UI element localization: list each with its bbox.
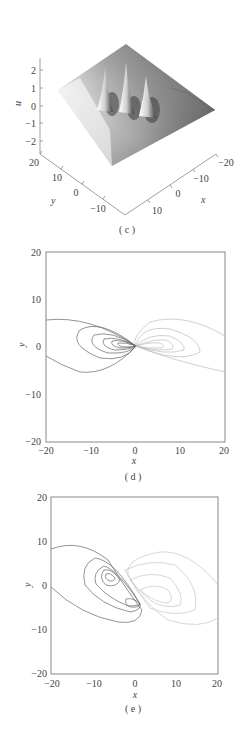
svg-text:−20: −20 [38, 445, 54, 456]
svg-text:2: 2 [31, 65, 36, 76]
svg-text:−20: −20 [218, 157, 234, 168]
panel-e-contour-plot: 20 10 0 −10 −20 −20 −10 0 10 20 x y [22, 492, 222, 715]
y-ticks-e: 20 10 0 −10 −20 [31, 492, 47, 679]
svg-text:0: 0 [42, 580, 47, 591]
svg-text:−20: −20 [44, 678, 60, 689]
panel-d-contour-plot: 20 10 0 −10 −20 −20 −10 0 10 20 x y [16, 247, 229, 483]
x-ticks-e: −20 −10 0 10 20 [44, 678, 222, 689]
caption-d: ( d ) [125, 471, 142, 483]
svg-text:−2: −2 [25, 136, 36, 147]
svg-text:−10: −10 [31, 624, 47, 635]
svg-text:10: 10 [175, 445, 185, 456]
svg-text:0: 0 [74, 187, 79, 198]
x-axis [125, 154, 216, 215]
x-axis-label-d: x [131, 455, 137, 466]
y-ticks-3d: 20 10 0 −10 [29, 151, 106, 214]
surface [58, 44, 215, 166]
contours-light-e [125, 552, 218, 625]
svg-text:10: 10 [171, 678, 181, 689]
svg-text:−10: −10 [86, 678, 102, 689]
y-axis-label-d: y [16, 342, 27, 348]
svg-text:10: 10 [31, 294, 41, 305]
svg-text:0: 0 [133, 678, 138, 689]
svg-text:0: 0 [36, 341, 41, 352]
svg-text:20: 20 [212, 678, 222, 689]
svg-text:10: 10 [152, 205, 162, 216]
x-axis-label-3d: x [200, 194, 206, 205]
x-ticks-3d: 10 0 −10 −20 [148, 154, 234, 216]
svg-text:−1: −1 [25, 118, 36, 129]
caption-c: ( c ) [119, 224, 135, 236]
contours-dark-d [46, 319, 136, 372]
svg-text:20: 20 [219, 445, 229, 456]
x-axis-label-e: x [132, 689, 138, 700]
svg-text:0: 0 [31, 101, 36, 112]
svg-text:−10: −10 [90, 203, 106, 214]
contours-dark-e [51, 545, 142, 622]
svg-text:10: 10 [37, 536, 47, 547]
svg-text:20: 20 [37, 492, 47, 503]
svg-text:−10: −10 [83, 445, 99, 456]
figure-canvas: 2 1 0 −1 −2 u 20 10 0 −10 y 10 0 −10 [0, 0, 244, 751]
svg-text:−10: −10 [193, 173, 209, 184]
svg-text:10: 10 [52, 172, 62, 183]
y-axis-label-e: y [22, 582, 33, 588]
svg-text:20: 20 [29, 157, 39, 168]
caption-e: ( e ) [125, 703, 141, 715]
contours-light-d [135, 319, 225, 372]
y-axis-label-3d: y [50, 195, 56, 206]
y-ticks-d: 20 10 0 −10 −20 [25, 247, 41, 447]
svg-text:−10: −10 [25, 389, 41, 400]
svg-text:0: 0 [176, 188, 181, 199]
svg-text:20: 20 [31, 247, 41, 258]
panel-c-surface-plot: 2 1 0 −1 −2 u 20 10 0 −10 y 10 0 −10 [12, 44, 234, 236]
svg-text:1: 1 [31, 83, 36, 94]
z-axis-label: u [12, 101, 23, 106]
